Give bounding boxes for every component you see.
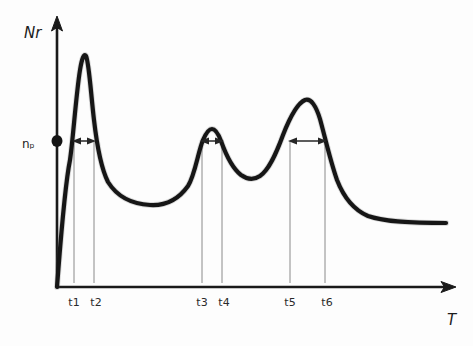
y-axis-label: Nr [24, 24, 42, 42]
plot-canvas: Nr T nₚ [0, 0, 473, 346]
threshold-level-dot-icon [52, 135, 63, 147]
x-tick-label-t3: t3 [196, 296, 207, 309]
x-tick-label-t2: t2 [90, 296, 101, 309]
figure-root: Nr T nₚ [0, 0, 473, 346]
peak-3-arrow-head-left-icon [288, 138, 297, 145]
x-tick-labels-group: t1 t2 t3 t4 t5 t6 [68, 296, 332, 309]
nr-curve [57, 55, 446, 287]
x-axis-label: T [447, 311, 458, 329]
x-tick-label-t6: t6 [321, 296, 332, 309]
axes-group [52, 16, 457, 293]
peak-3-width-arrow [288, 138, 327, 145]
x-tick-label-t1: t1 [68, 296, 79, 309]
curve-group [57, 55, 446, 287]
x-tick-label-t5: t5 [284, 296, 295, 309]
threshold-level-label: nₚ [22, 137, 35, 151]
x-tick-label-t4: t4 [218, 296, 229, 309]
curve-shadow [57, 55, 446, 287]
peak-1-width-arrow [72, 138, 96, 145]
